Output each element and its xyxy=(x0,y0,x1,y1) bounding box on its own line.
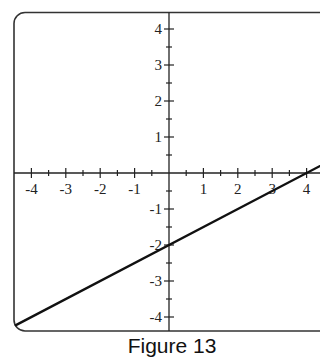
y-tick-label: 1 xyxy=(155,129,163,145)
x-axis: -4-3-2-11234 xyxy=(14,168,320,197)
x-tick-label: 4 xyxy=(303,181,311,197)
plot-frame xyxy=(14,13,320,332)
x-tick-label: -2 xyxy=(94,181,107,197)
x-tick-label: 1 xyxy=(200,181,208,197)
y-tick-label: -1 xyxy=(150,201,163,217)
plot-border xyxy=(14,13,320,332)
x-tick-label: 2 xyxy=(234,181,242,197)
x-tick-label: -3 xyxy=(60,181,73,197)
y-tick-label: 3 xyxy=(155,57,163,73)
x-tick-label: -4 xyxy=(25,181,38,197)
y-axis: 4321-1-2-3-4 xyxy=(150,13,175,332)
y-tick-label: 4 xyxy=(155,21,163,37)
x-tick-label: -1 xyxy=(128,181,141,197)
y-tick-label: -3 xyxy=(150,273,163,289)
y-tick-label: -4 xyxy=(150,309,163,325)
figure-caption: Figure 13 xyxy=(0,334,320,358)
y-tick-label: 2 xyxy=(155,93,163,109)
